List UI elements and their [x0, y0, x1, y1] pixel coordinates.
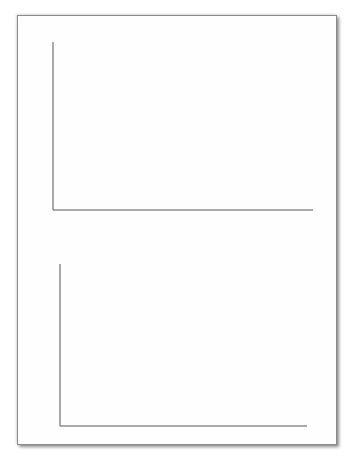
time-series-plot — [0, 0, 313, 210]
power-spectrum-plot — [0, 0, 307, 426]
figure-canvas — [0, 0, 361, 462]
